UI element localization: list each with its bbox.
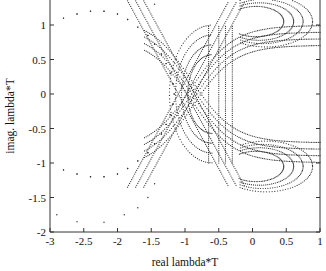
y-axis-label: imag. lambda*T [4, 78, 17, 153]
y-tick-label: 0 [41, 88, 47, 100]
x-tick-label: -1.5 [143, 235, 161, 247]
x-axis-label: real lambda*T [152, 256, 219, 268]
x-tick-label: -0.5 [210, 235, 228, 247]
y-tick-label: -2 [37, 226, 46, 238]
ticks [50, 25, 320, 232]
plot-dots [56, 0, 321, 223]
tick-labels: -3-2.5-2-1.5-1-0.500.51-2-1.5-1-0.500.51 [29, 19, 323, 247]
x-tick-label: 1 [317, 235, 323, 247]
y-tick-label: 0.5 [32, 54, 46, 66]
x-tick-label: -2 [113, 235, 122, 247]
y-tick-label: -1.5 [29, 192, 47, 204]
x-tick-label: -3 [45, 235, 55, 247]
x-tick-label: -1 [180, 235, 189, 247]
y-tick-label: 1 [41, 19, 47, 31]
x-tick-label: 0 [250, 235, 256, 247]
x-tick-label: 0.5 [279, 235, 293, 247]
y-tick-label: -1 [37, 157, 46, 169]
x-tick-label: -2.5 [75, 235, 93, 247]
y-tick-label: -0.5 [29, 123, 47, 135]
chart: -3-2.5-2-1.5-1-0.500.51-2-1.5-1-0.500.51… [0, 0, 326, 271]
